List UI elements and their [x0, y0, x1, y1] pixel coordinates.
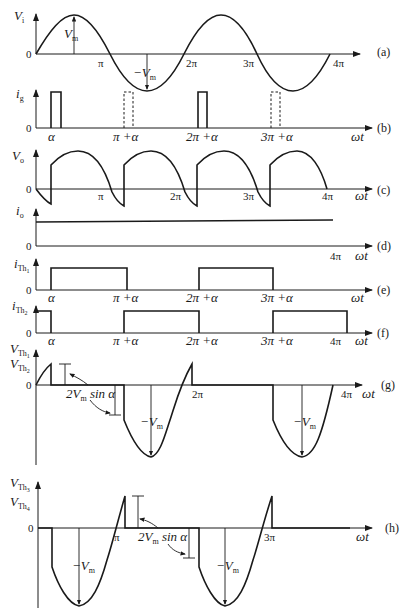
tick-c-4pi: 4π: [322, 190, 334, 202]
xlabel-c: ωt: [355, 188, 368, 203]
tick-c-2pi: 2π: [170, 190, 182, 202]
sine-wave: [36, 15, 330, 91]
label-ith2: iTh2: [12, 298, 28, 316]
panel-a-input-voltage: [36, 14, 360, 91]
zero-c: 0: [26, 183, 32, 195]
tick-f-2pi-alpha: 2π +α: [186, 333, 219, 348]
zero-e: 0: [26, 284, 32, 296]
tick-h-pi: π: [114, 531, 120, 543]
label-h-neg-vm-1: −Vm: [72, 558, 96, 575]
tick-d-4pi: 4π: [330, 250, 342, 262]
tick-e-pi-alpha: π +α: [113, 290, 140, 305]
panel-d-output-current: [36, 209, 372, 246]
tick-f-pi-alpha: π +α: [113, 333, 140, 348]
zero-a: 0: [26, 48, 32, 60]
label-vi: Vi: [14, 8, 25, 25]
zero-d: 0: [26, 240, 32, 252]
label-vth3: VTh3: [10, 475, 30, 493]
tick-e-3pi-alpha: 3π +α: [260, 290, 294, 305]
label-ith1: iTh1: [14, 256, 30, 274]
label-neg-vm: −Vm: [133, 65, 157, 82]
xlabel-b: ωt: [351, 129, 364, 144]
label-vo: Vo: [12, 148, 24, 165]
xlabel-d: ωt: [355, 248, 368, 263]
tick-2pi: 2π: [186, 57, 198, 69]
label-h-neg-vm-2: −Vm: [216, 558, 240, 575]
panel-g-thyristor12-voltage: [36, 350, 362, 465]
tick-c-3pi: 3π: [243, 190, 255, 202]
zero-h: 0: [28, 522, 34, 534]
tag-b: (b): [377, 121, 391, 135]
waveform-diagram: Vi Vm −Vm 0 π 2π 3π 4π (a) ig 0 α π +α 2…: [0, 0, 412, 615]
xlabel-f: ωt: [355, 333, 368, 348]
tick-2pi-alpha: 2π +α: [186, 129, 219, 144]
label-g-neg-vm-2: −Vm: [293, 414, 317, 431]
tick-e-alpha: α: [48, 290, 56, 305]
label-ig: ig: [16, 86, 24, 103]
label-io: io: [16, 203, 24, 220]
label-vm: Vm: [64, 26, 79, 43]
tick-e-2pi-alpha: 2π +α: [186, 290, 219, 305]
tag-c: (c): [377, 183, 390, 197]
tick-3pi: 3π: [243, 57, 255, 69]
zero-g: 0: [26, 379, 32, 391]
tick-f-alpha: α: [48, 333, 56, 348]
tick-f-3pi-alpha: 3π +α: [260, 333, 294, 348]
tag-d: (d): [377, 239, 391, 253]
tag-f: (f): [377, 326, 389, 340]
tick-alpha: α: [48, 129, 56, 144]
tag-e: (e): [377, 283, 390, 297]
zero-f: 0: [26, 327, 32, 339]
tick-pi-alpha: π +α: [113, 129, 140, 144]
panel-h-thyristor34-voltage: [38, 482, 372, 608]
label-2vm-sin-alpha-g: 2Vm sin α: [66, 386, 116, 403]
tick-f-4pi: 4π: [330, 335, 342, 347]
label-g-neg-vm-1: −Vm: [140, 414, 164, 431]
xlabel-g: ωt: [362, 386, 375, 401]
xlabel-h: ωt: [356, 529, 369, 544]
tag-g: (g): [381, 378, 395, 392]
label-vth4: VTh4: [10, 494, 30, 512]
panel-b-gate-current: [36, 90, 372, 128]
tick-3pi-alpha: 3π +α: [260, 129, 294, 144]
tick-h-3pi: 3π: [264, 531, 276, 543]
tick-g-4pi: 4π: [341, 388, 353, 400]
tag-a: (a): [377, 45, 390, 59]
tag-h: (h): [385, 521, 399, 535]
label-2vm-sin-alpha-h: 2Vm sin α: [138, 529, 188, 546]
zero-b: 0: [26, 122, 32, 134]
tick-c-pi: π: [98, 190, 104, 202]
xlabel-e: ωt: [351, 290, 364, 305]
tick-4pi: 4π: [333, 57, 345, 69]
tick-g-2pi: 2π: [192, 388, 204, 400]
panel-e-thyristor1-current: [36, 259, 372, 290]
tick-pi: π: [98, 57, 104, 69]
panel-f-thyristor2-current: [36, 306, 372, 333]
